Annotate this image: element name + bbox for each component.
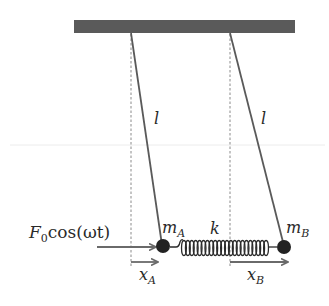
mass-label-a: mA: [162, 218, 185, 240]
ceiling-support: [74, 20, 295, 33]
spring-constant-label: k: [210, 219, 220, 238]
pendulum-string-a: [131, 33, 162, 245]
string-length-label-a: l: [154, 109, 159, 128]
string-length-label-b: l: [261, 109, 266, 128]
pendulum-string-b: [230, 33, 284, 246]
mass-b: [277, 240, 291, 254]
coupled-pendulum-diagram: l l F0cos(ωt) k mA mB xA xB: [0, 0, 329, 306]
displacement-label-a: xA: [139, 265, 156, 287]
displacement-label-b: xB: [247, 265, 264, 287]
force-label: F0cos(ωt): [28, 222, 110, 245]
spring: [170, 240, 277, 256]
mass-label-b: mB: [286, 218, 309, 240]
mass-a: [156, 239, 170, 253]
